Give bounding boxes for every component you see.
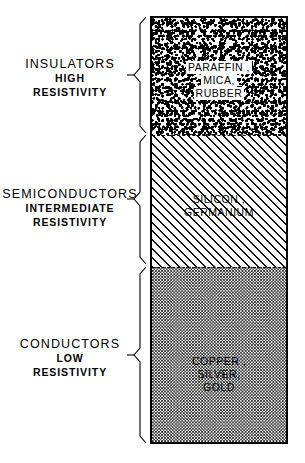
category-property-semiconductors-line1: INTERMEDIATE — [0, 202, 140, 216]
divider-semiconductors-conductors — [152, 267, 286, 268]
material-conductor-1: COPPER , — [190, 355, 248, 368]
material-conductor-3: GOLD — [201, 381, 237, 394]
category-property-insulators-line2: RESISTIVITY — [0, 86, 140, 100]
materials-insulators: PARAFFIN , MICA, RUBBER — [152, 61, 286, 100]
category-property-conductors-line2: RESISTIVITY — [0, 366, 140, 380]
category-property-semiconductors-line2: RESISTIVITY — [0, 216, 140, 230]
resistivity-bar: PARAFFIN , MICA, RUBBER SILICON , GERMAN… — [150, 16, 288, 444]
material-conductor-2: SILVER, — [196, 368, 243, 381]
category-property-insulators-line1: HIGH — [0, 72, 140, 86]
materials-semiconductors: SILICON , GERMANIUM — [152, 193, 286, 219]
category-label-conductors: CONDUCTORS LOW RESISTIVITY — [0, 336, 140, 379]
materials-conductors: COPPER , SILVER, GOLD — [152, 355, 286, 394]
material-insulator-3: RUBBER — [194, 87, 245, 100]
material-insulator-2: MICA, — [201, 74, 237, 87]
material-insulator-1: PARAFFIN , — [186, 61, 252, 74]
category-name-insulators: INSULATORS — [0, 56, 140, 72]
category-name-conductors: CONDUCTORS — [0, 336, 140, 352]
material-semiconductor-1: SILICON , — [191, 193, 247, 206]
divider-insulators-semiconductors — [152, 135, 286, 136]
category-name-semiconductors: SEMICONDUCTORS — [0, 186, 140, 202]
category-label-semiconductors: SEMICONDUCTORS INTERMEDIATE RESISTIVITY — [0, 186, 140, 229]
material-semiconductor-2: GERMANIUM — [182, 206, 256, 219]
category-label-insulators: INSULATORS HIGH RESISTIVITY — [0, 56, 140, 99]
resistivity-diagram: INSULATORS HIGH RESISTIVITY SEMICONDUCTO… — [0, 0, 305, 463]
category-property-conductors-line1: LOW — [0, 352, 140, 366]
